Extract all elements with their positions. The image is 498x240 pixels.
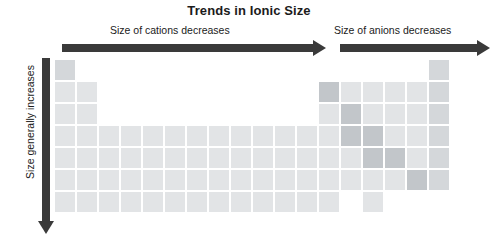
- down-arrow-icon: [38, 58, 54, 234]
- anion-trend-arrow-icon: [340, 40, 490, 56]
- periodic-table-cell: [99, 126, 119, 146]
- periodic-table-cell: [363, 170, 383, 190]
- periodic-table-cell: [385, 148, 405, 168]
- periodic-table-cell: [55, 148, 75, 168]
- periodic-table-cell: [253, 170, 273, 190]
- periodic-table-cell: [55, 126, 75, 146]
- periodic-table-cell: [165, 126, 185, 146]
- periodic-table-cell: [187, 170, 207, 190]
- periodic-table-cell: [363, 82, 383, 102]
- periodic-table-cell: [187, 192, 207, 212]
- periodic-table-cell: [385, 126, 405, 146]
- periodic-table-cell: [297, 126, 317, 146]
- arrow-head: [477, 40, 490, 56]
- periodic-table-cell: [165, 148, 185, 168]
- periodic-table-cell: [77, 148, 97, 168]
- periodic-table-cell: [209, 148, 229, 168]
- periodic-table-cell: [99, 170, 119, 190]
- periodic-table-cell: [407, 148, 427, 168]
- periodic-table-cell: [77, 104, 97, 124]
- periodic-table-cell: [99, 148, 119, 168]
- arrow-head: [313, 40, 326, 56]
- periodic-table-cell: [319, 82, 339, 102]
- arrow-shaft: [340, 44, 477, 52]
- periodic-table-cell: [341, 170, 361, 190]
- periodic-table-cell: [165, 170, 185, 190]
- periodic-table-cell: [209, 192, 229, 212]
- periodic-table-cell: [77, 170, 97, 190]
- arrow-shaft: [62, 44, 313, 52]
- periodic-table-cell: [385, 170, 405, 190]
- periodic-table-cell: [429, 170, 449, 190]
- periodic-table-cell: [55, 104, 75, 124]
- periodic-table-cell: [275, 148, 295, 168]
- periodic-table-cell: [55, 60, 75, 80]
- arrow-shaft: [42, 58, 50, 221]
- periodic-table-cell: [187, 126, 207, 146]
- periodic-table-cell: [363, 192, 383, 212]
- vertical-trend-label: Size generally increases: [24, 42, 36, 202]
- periodic-table-cell: [121, 148, 141, 168]
- periodic-table-cell: [341, 104, 361, 124]
- periodic-table-cell: [429, 148, 449, 168]
- periodic-table-cell: [209, 126, 229, 146]
- periodic-table-cell: [319, 192, 339, 212]
- periodic-table-cell: [363, 104, 383, 124]
- periodic-table-cell: [165, 192, 185, 212]
- periodic-table-cell: [231, 170, 251, 190]
- periodic-table-cell: [77, 192, 97, 212]
- periodic-table-cell: [121, 170, 141, 190]
- periodic-table-cell: [231, 126, 251, 146]
- periodic-table-cell: [407, 170, 427, 190]
- periodic-table-cell: [363, 126, 383, 146]
- periodic-table-cell: [429, 104, 449, 124]
- periodic-table-cell: [385, 104, 405, 124]
- periodic-table-cell: [319, 126, 339, 146]
- periodic-table-cell: [253, 192, 273, 212]
- periodic-table-cell: [77, 82, 97, 102]
- ionic-size-trends-figure: Trends in Ionic Size Size of cations dec…: [0, 0, 498, 240]
- periodic-table-cell: [429, 60, 449, 80]
- periodic-table-cell: [341, 126, 361, 146]
- periodic-table-cell: [143, 126, 163, 146]
- periodic-table-cell: [407, 126, 427, 146]
- periodic-table-cell: [429, 126, 449, 146]
- periodic-table-cell: [187, 148, 207, 168]
- periodic-table-cell: [143, 192, 163, 212]
- cation-trend-label: Size of cations decreases: [110, 24, 230, 36]
- periodic-table-cell: [253, 126, 273, 146]
- periodic-table-cell: [253, 148, 273, 168]
- periodic-table-cell: [319, 104, 339, 124]
- periodic-table-cell: [77, 126, 97, 146]
- periodic-table-cell: [319, 170, 339, 190]
- periodic-table-cell: [363, 148, 383, 168]
- periodic-table-cell: [231, 148, 251, 168]
- periodic-table-cell: [99, 192, 119, 212]
- page-title: Trends in Ionic Size: [0, 3, 498, 18]
- arrow-head: [38, 221, 54, 234]
- periodic-table-cell: [385, 82, 405, 102]
- periodic-table-cell: [297, 192, 317, 212]
- periodic-table-cell: [143, 148, 163, 168]
- periodic-table-cell: [275, 126, 295, 146]
- periodic-table-grid: [55, 60, 451, 214]
- periodic-table-cell: [231, 192, 251, 212]
- periodic-table-cell: [275, 192, 295, 212]
- periodic-table-cell: [407, 82, 427, 102]
- periodic-table-cell: [121, 126, 141, 146]
- periodic-table-cell: [429, 82, 449, 102]
- periodic-table-cell: [55, 192, 75, 212]
- periodic-table-cell: [297, 148, 317, 168]
- periodic-table-cell: [209, 170, 229, 190]
- periodic-table-cell: [275, 170, 295, 190]
- periodic-table-cell: [407, 104, 427, 124]
- periodic-table-cell: [143, 170, 163, 190]
- periodic-table-cell: [341, 148, 361, 168]
- periodic-table-cell: [297, 170, 317, 190]
- vertical-trend-group: Size generally increases: [10, 58, 50, 234]
- periodic-table-cell: [121, 192, 141, 212]
- periodic-table-cell: [55, 170, 75, 190]
- anion-trend-label: Size of anions decreases: [334, 24, 451, 36]
- periodic-table-cell: [341, 82, 361, 102]
- cation-trend-arrow-icon: [62, 40, 326, 56]
